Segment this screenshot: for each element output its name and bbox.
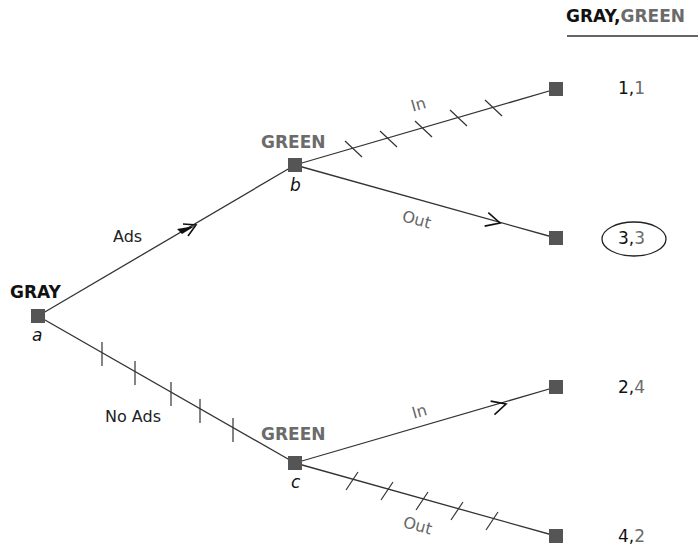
payoff-1: 1,1 [618, 80, 645, 97]
branch-ads [38, 165, 295, 316]
payoff-4: 4,2 [618, 528, 645, 545]
arrow-icon-b-out [485, 213, 502, 230]
node-b-id: b [290, 177, 301, 194]
node-c [288, 456, 302, 470]
payoff-1-green: 1 [634, 78, 645, 98]
node-c-id: c [291, 474, 300, 491]
branch-b-in [295, 89, 556, 165]
payoff-header: GRAY,GREEN [566, 8, 685, 25]
payoff-2-green: 3 [634, 228, 645, 248]
terminal-node-3 [549, 380, 563, 394]
payoff-2-gray: 3 [618, 228, 629, 248]
terminal-node-4 [549, 529, 563, 543]
branch-no-ads [38, 316, 295, 463]
header-player2: GREEN [621, 6, 686, 26]
node-c-player: GREEN [261, 426, 326, 443]
hash-marks-no-ads [102, 342, 233, 442]
branch-label-ads: Ads [113, 229, 142, 245]
payoff-1-gray: 1 [618, 78, 629, 98]
node-b-player: GREEN [261, 134, 326, 151]
node-b [288, 158, 302, 172]
payoff-4-gray: 4 [618, 526, 629, 546]
payoff-2: 3,3 [618, 230, 645, 247]
terminal-node-1 [549, 82, 563, 96]
node-a-id: a [32, 327, 42, 344]
payoff-3-gray: 2 [618, 377, 629, 397]
payoff-3-green: 4 [634, 377, 645, 397]
terminal-node-2 [549, 231, 563, 245]
game-tree [0, 0, 698, 557]
branch-label-no-ads: No Ads [105, 409, 161, 425]
node-a [31, 309, 45, 323]
payoff-3: 2,4 [618, 379, 645, 396]
branch-c-in [295, 387, 556, 463]
node-a-player: GRAY [10, 284, 61, 301]
arrow-icon-ads [177, 224, 196, 236]
payoff-4-green: 2 [634, 526, 645, 546]
header-player1: GRAY [566, 6, 614, 26]
